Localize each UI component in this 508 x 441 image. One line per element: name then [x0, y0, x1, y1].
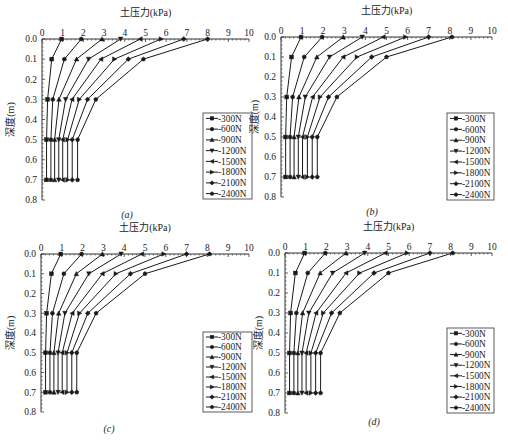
series-group [44, 252, 212, 395]
y-tick-label: 0.4 [25, 115, 37, 125]
series-line-300N [47, 39, 62, 180]
circle-marker-icon [62, 57, 66, 61]
x-axis-title: 土压力(kPa) [119, 221, 171, 234]
x-tick-label: 6 [164, 28, 169, 38]
circle-marker-icon [48, 351, 52, 355]
square-marker-icon [59, 252, 63, 256]
y-tick-label: 0.3 [25, 95, 37, 105]
square-marker-icon [284, 135, 288, 139]
diamond-marker-icon [70, 177, 75, 182]
x-tick-label: 10 [487, 26, 497, 36]
square-marker-icon [289, 311, 293, 315]
y-axis-title: 深度(m) [4, 102, 17, 136]
legend-entry-label: -1200N [462, 360, 491, 370]
triangle-up-marker-icon [292, 135, 297, 139]
legend-entry-label: -2400N [218, 189, 247, 199]
circle-marker-icon [306, 271, 310, 275]
legend-entry-label: -1800N [462, 168, 491, 178]
x-tick-label: 5 [386, 242, 391, 252]
panel-caption: (b) [366, 206, 378, 218]
square-marker-icon [210, 335, 213, 338]
legend-entry-label: -1500N [218, 157, 247, 167]
square-marker-icon [284, 175, 288, 179]
x-tick-label: 6 [405, 26, 410, 36]
legend: -300N-600N-900N-1200N-1500N-1800N-2100N-… [447, 328, 494, 413]
triangle-up-marker-icon [52, 390, 57, 394]
circle-marker-icon [49, 138, 53, 142]
square-marker-icon [60, 37, 64, 41]
x-tick-label: 2 [324, 242, 329, 252]
square-marker-icon [303, 251, 307, 255]
panel-caption: (a) [121, 209, 133, 221]
x-axis-title: 土压力(kPa) [361, 4, 413, 17]
square-marker-icon [50, 272, 54, 276]
square-marker-icon [44, 390, 48, 394]
pentagon-marker-icon [141, 57, 145, 61]
legend-entry-label: -1200N [218, 362, 247, 372]
pentagon-marker-icon [75, 351, 79, 355]
legend-entry-label: -300N [218, 114, 242, 124]
x-tick-label: 5 [143, 28, 148, 38]
square-marker-icon [299, 35, 303, 39]
square-marker-icon [46, 97, 50, 101]
x-axis-title: 土压力(kPa) [120, 6, 172, 19]
circle-marker-icon [288, 175, 292, 179]
diamond-marker-icon [69, 350, 74, 355]
y-tick-label: 0.6 [264, 152, 276, 162]
y-tick-label: 0.6 [268, 368, 280, 378]
x-tick-label: 5 [384, 26, 389, 36]
x-tick-label: 0 [40, 28, 45, 38]
x-tick-label: 1 [60, 28, 65, 38]
x-tick-label: 3 [342, 26, 347, 36]
triangle-right-marker-icon [113, 57, 117, 62]
y-tick-label: 0.1 [25, 54, 37, 64]
circle-marker-icon [454, 342, 458, 346]
triangle-down-marker-icon [56, 351, 61, 355]
y-axis-title: 深度(m) [4, 316, 17, 350]
diamond-marker-icon [69, 390, 74, 395]
y-tick-label: 0.5 [24, 348, 36, 358]
legend-entry-label: -300N [218, 332, 242, 342]
x-tick-label: 2 [321, 26, 326, 36]
y-tick-label: 0.7 [25, 175, 37, 185]
legend-entry-label: -1800N [218, 382, 247, 392]
x-tick-label: 0 [279, 26, 284, 36]
figure-2x2-panels: 0123456789100.00.10.20.30.40.50.60.70.8土… [0, 0, 508, 441]
legend-entry-label: -900N [218, 352, 242, 362]
y-tick-label: 0.0 [24, 249, 36, 259]
triangle-down-marker-icon [330, 271, 335, 275]
x-tick-label: 4 [363, 26, 368, 36]
figure-canvas: 0123456789100.00.10.20.30.40.50.60.70.8土… [0, 0, 508, 441]
x-tick-label: 9 [469, 242, 474, 252]
legend-entry-label: -600N [218, 124, 242, 134]
x-tick-label: 9 [226, 243, 231, 253]
y-tick-label: 0.3 [264, 92, 276, 102]
y-tick-label: 0.2 [264, 72, 276, 82]
y-tick-label: 0.0 [264, 32, 276, 42]
legend-entry-label: -1200N [462, 146, 491, 156]
x-tick-label: 5 [143, 243, 148, 253]
pentagon-marker-icon [315, 175, 319, 179]
x-tick-label: 1 [300, 26, 305, 36]
x-tick-label: 3 [345, 242, 350, 252]
legend-entry-label: -2100N [218, 392, 247, 402]
circle-marker-icon [294, 311, 298, 315]
y-tick-label: 0.7 [264, 172, 276, 182]
x-tick-label: 6 [163, 243, 168, 253]
legend: -300N-600N-900N-1200N-1500N-1800N-2100N-… [203, 332, 252, 412]
y-tick-label: 0.2 [25, 75, 37, 85]
square-marker-icon [288, 351, 292, 355]
x-tick-label: 1 [59, 243, 64, 253]
square-marker-icon [290, 55, 294, 59]
square-marker-icon [285, 95, 289, 99]
y-tick-label: 0.8 [264, 192, 276, 202]
y-tick-label: 0.8 [25, 195, 37, 205]
triangle-down-marker-icon [327, 55, 332, 59]
circle-marker-icon [323, 251, 327, 255]
legend-entry-label: -900N [462, 135, 486, 145]
triangle-down-marker-icon [63, 97, 68, 101]
triangle-down-marker-icon [86, 57, 91, 61]
pentagon-marker-icon [75, 390, 79, 394]
pentagon-marker-icon [319, 391, 323, 395]
y-tick-label: 0.6 [25, 155, 37, 165]
